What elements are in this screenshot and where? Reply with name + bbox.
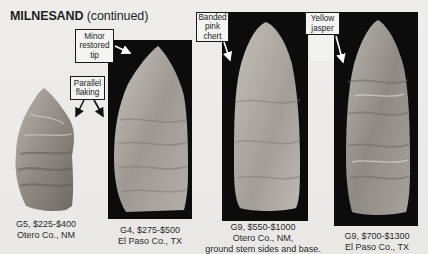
callout-yellow-jasper: Yellow jasper [305, 12, 340, 35]
title-rest: (continued) [83, 9, 148, 23]
point-caption-4: G9, $700-$1300 El Paso Co., TX [344, 231, 409, 253]
callout-banded-chert: Banded pink chert [196, 12, 229, 42]
grade-price: G4, $275-$500 [118, 225, 182, 236]
grade-price: G9, $550-$1000 [205, 222, 321, 233]
point-caption-1: G5, $225-$400 Otero Co., NM [16, 219, 76, 241]
point-photo-2 [108, 40, 192, 219]
point-photo-4 [334, 12, 418, 226]
point-photo-3 [222, 12, 308, 221]
arrow-flaking-right [94, 100, 103, 116]
location: Otero Co., NM, [205, 233, 321, 244]
point-caption-2: G4, $275-$500 El Paso Co., TX [118, 225, 182, 247]
point-caption-3: G9, $550-$1000 Otero Co., NM, ground ste… [205, 222, 321, 254]
callout-restored-tip: Minor restored tip [75, 29, 114, 63]
page-title: MILNESAND (continued) [10, 9, 148, 23]
location: El Paso Co., TX [118, 236, 182, 247]
grade-price: G5, $225-$400 [16, 219, 76, 230]
note: ground stem sides and base. [205, 244, 321, 254]
grade-price: G9, $700-$1300 [344, 231, 409, 242]
book-page: MILNESAND (continued) G5, $225-$400 Oter… [0, 0, 428, 254]
location: Otero Co., NM [16, 230, 76, 241]
callout-parallel-flaking: Parallel flaking [70, 76, 105, 100]
title-bold: MILNESAND [10, 9, 83, 23]
location: El Paso Co., TX [344, 242, 409, 253]
callout-strip [310, 33, 334, 61]
point-photo-1 [10, 84, 80, 214]
